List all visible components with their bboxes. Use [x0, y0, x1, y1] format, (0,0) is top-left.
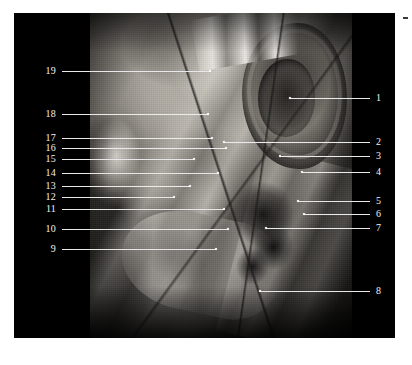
label-number-1: 1: [376, 93, 381, 103]
leader-dot-8: [259, 290, 261, 292]
leader-line-10: [62, 229, 228, 230]
leader-line-9: [62, 249, 216, 250]
leader-dot-5: [297, 200, 299, 202]
leader-dot-16: [225, 147, 227, 149]
leader-dot-4: [301, 171, 303, 173]
leader-dot-12: [173, 196, 175, 198]
leader-dot-7: [265, 227, 267, 229]
specimen-photograph: [90, 13, 352, 338]
leader-line-13: [62, 186, 190, 187]
leader-line-2: [224, 142, 370, 143]
leader-line-5: [298, 201, 370, 202]
label-number-6: 6: [376, 209, 381, 219]
label-number-2: 2: [376, 137, 381, 147]
label-number-16: 16: [46, 143, 56, 153]
leader-line-16: [62, 148, 226, 149]
leader-dot-1: [289, 97, 291, 99]
leader-dot-2: [223, 141, 225, 143]
leader-dot-15: [193, 158, 195, 160]
leader-line-6: [304, 214, 370, 215]
leader-line-19: [62, 71, 210, 72]
leader-line-15: [62, 159, 194, 160]
leader-line-17: [62, 138, 212, 139]
leader-dot-17: [211, 137, 213, 139]
label-number-5: 5: [376, 196, 381, 206]
leader-line-3: [280, 156, 370, 157]
label-number-3: 3: [376, 151, 381, 161]
label-number-8: 8: [376, 286, 381, 296]
label-number-11: 11: [46, 204, 56, 214]
label-number-9: 9: [51, 244, 56, 254]
leader-line-12: [62, 197, 174, 198]
photo-vignette-overlay: [90, 13, 352, 338]
leader-line-1: [290, 98, 370, 99]
leader-dot-18: [207, 113, 209, 115]
label-number-13: 13: [46, 181, 56, 191]
leader-dot-19: [209, 70, 211, 72]
leader-dot-13: [189, 185, 191, 187]
leader-dot-3: [279, 155, 281, 157]
anatomy-figure-plate: 191817161514131211109 12345678: [14, 13, 395, 338]
leader-dot-9: [215, 248, 217, 250]
label-number-18: 18: [46, 109, 56, 119]
leader-line-7: [266, 228, 370, 229]
leader-line-4: [302, 172, 370, 173]
corner-tick-icon: [403, 17, 408, 19]
label-number-19: 19: [46, 66, 56, 76]
label-number-15: 15: [46, 154, 56, 164]
label-number-10: 10: [46, 224, 56, 234]
leader-dot-14: [217, 172, 219, 174]
figure-root: 191817161514131211109 12345678: [0, 0, 412, 365]
label-number-7: 7: [376, 223, 381, 233]
leader-line-8: [260, 291, 370, 292]
leader-line-11: [62, 209, 224, 210]
leader-dot-11: [223, 208, 225, 210]
leader-line-18: [62, 114, 208, 115]
leader-line-14: [62, 173, 218, 174]
label-number-12: 12: [46, 192, 56, 202]
label-number-4: 4: [376, 167, 381, 177]
leader-dot-10: [227, 228, 229, 230]
label-number-14: 14: [46, 168, 56, 178]
leader-dot-6: [303, 213, 305, 215]
